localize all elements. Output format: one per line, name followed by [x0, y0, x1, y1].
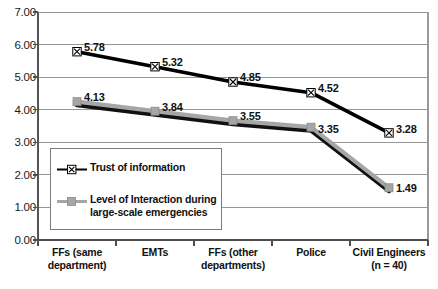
data-label-interaction: 4.13	[84, 91, 105, 103]
line-chart: 7.00 6.00 5.00 4.00 3.00 2.00 1.00 0.00	[0, 0, 438, 289]
x-category-line2: departments)	[194, 259, 272, 272]
x-category-line2: department)	[38, 259, 116, 272]
x-category-line1: FFs (same	[52, 246, 102, 258]
legend-label-interaction-line2: large-scale emergencies	[90, 206, 216, 219]
legend-item-trust: Trust of information	[57, 161, 185, 175]
x-category-label: FFs (same department)	[38, 243, 116, 287]
x-category-label: Police	[272, 243, 350, 287]
legend: Trust of information Level of Interactio…	[50, 148, 222, 230]
x-category-line1: EMTs	[142, 246, 168, 258]
data-label-interaction: 3.35	[318, 123, 339, 135]
x-category-label: FFs (other departments)	[194, 243, 272, 287]
legend-item-interaction: Level of Interaction during large-scale …	[57, 193, 216, 218]
x-category-label: Civil Engineers (n = 40)	[350, 243, 428, 287]
data-label-interaction: 3.55	[240, 110, 261, 122]
x-category-label: EMTs	[116, 243, 194, 287]
x-axis-category-labels: FFs (same department) EMTs FFs (other de…	[38, 243, 428, 287]
legend-label-interaction: Level of Interaction during large-scale …	[87, 193, 216, 218]
x-category-line2: (n = 40)	[350, 259, 428, 272]
data-label-trust: 4.52	[318, 82, 339, 94]
legend-label-trust: Trust of information	[87, 161, 185, 174]
x-category-line1: FFs (other	[208, 246, 257, 258]
data-label-trust: 3.28	[396, 123, 417, 135]
data-label-trust: 5.32	[162, 56, 183, 68]
data-label-trust: 4.85	[240, 71, 261, 83]
data-label-interaction: 1.49	[396, 182, 417, 194]
data-label-trust: 5.78	[84, 41, 105, 53]
data-label-interaction: 3.84	[162, 101, 183, 113]
legend-key-trust-icon	[57, 162, 87, 175]
legend-label-interaction-line1: Level of Interaction during	[90, 193, 216, 205]
x-category-line1: Civil Engineers	[353, 246, 426, 258]
x-category-line1: Police	[296, 246, 326, 258]
legend-key-interaction-icon	[57, 194, 87, 207]
